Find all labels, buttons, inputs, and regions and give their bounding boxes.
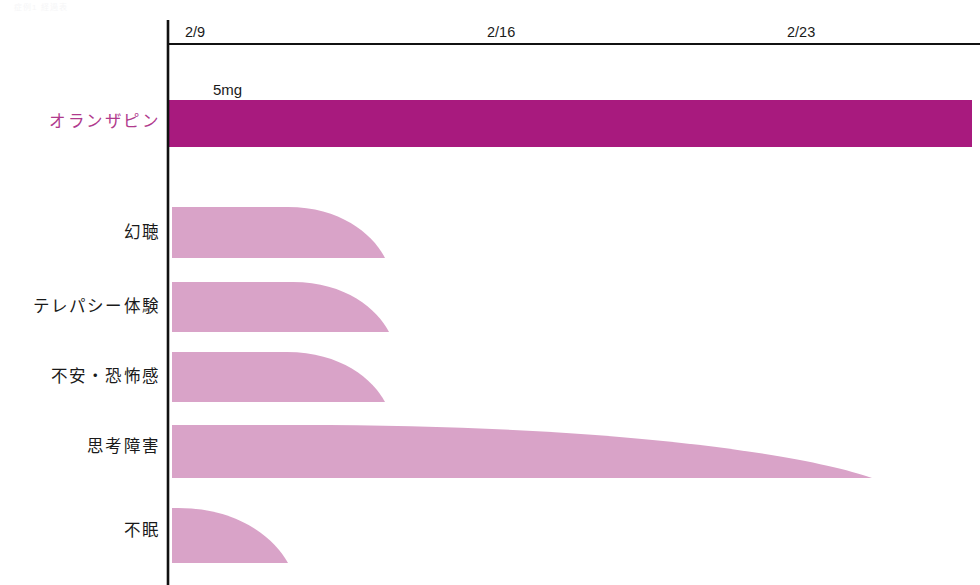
bar-symptom-4 — [172, 425, 872, 478]
axis-tick-label-0: 2/9 — [185, 24, 205, 40]
bar-symptom-3 — [172, 352, 385, 402]
bar-medication-0 — [168, 100, 972, 147]
bar-symptom-1 — [172, 207, 385, 258]
row-label-1: 幻聴 — [124, 223, 160, 241]
axis-tick-label-2: 2/23 — [787, 24, 815, 40]
row-label-3: 不安・恐怖感 — [51, 367, 160, 385]
bar-symptom-5 — [172, 508, 288, 563]
row-label-2: テレパシー体験 — [33, 297, 160, 315]
clinical-course-chart: 症例1 経過表 2/92/162/23 オランザピン幻聴テレパシー体験不安・恐怖… — [0, 0, 980, 585]
row-label-5: 不眠 — [124, 521, 160, 539]
row-labels-layer: オランザピン幻聴テレパシー体験不安・恐怖感思考障害不眠 — [33, 112, 160, 539]
dose-label: 5mg — [213, 81, 242, 98]
row-label-4: 思考障害 — [87, 437, 160, 455]
annotations-layer: 5mg — [213, 81, 242, 98]
row-label-0: オランザピン — [49, 112, 160, 130]
axis-tick-label-1: 2/16 — [487, 24, 515, 40]
chart-canvas: 2/92/162/23 オランザピン幻聴テレパシー体験不安・恐怖感思考障害不眠 … — [0, 0, 980, 585]
bars-layer — [168, 100, 972, 563]
bar-symptom-2 — [172, 282, 389, 332]
